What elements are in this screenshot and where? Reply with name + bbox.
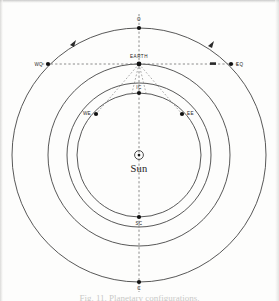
label-east-quadrature: EQ bbox=[236, 62, 243, 67]
label-conjunction: C bbox=[137, 286, 141, 291]
label-west-quadrature: WQ bbox=[34, 62, 43, 67]
label-east-elongation: EE bbox=[187, 111, 194, 116]
label-superior-conjunction: SC bbox=[135, 221, 142, 226]
node-dot-inferior-conjunction[interactable] bbox=[137, 91, 141, 95]
node-dot-conjunction[interactable] bbox=[137, 280, 141, 284]
label-earth: EARTH bbox=[130, 54, 148, 59]
orbit-direction-arrow-upper-right bbox=[208, 41, 214, 48]
axis-direction-arrow-east bbox=[210, 62, 216, 65]
label-opposition: O bbox=[137, 17, 141, 22]
node-dot-opposition[interactable] bbox=[137, 26, 141, 30]
node-dot-east-quadrature[interactable] bbox=[229, 62, 233, 66]
orbit-direction-arrow-outer bbox=[70, 40, 76, 47]
label-west-elongation: WE bbox=[83, 111, 91, 116]
node-dot-west-quadrature[interactable] bbox=[46, 62, 50, 66]
label-sun: Sun bbox=[130, 163, 148, 174]
label-inferior-conjunction: IC bbox=[136, 85, 142, 90]
figure-root: O WQ EQ EARTH IC WE EE SC C Sun Fig. 11.… bbox=[0, 0, 279, 301]
node-dot-superior-conjunction[interactable] bbox=[137, 215, 141, 219]
planetary-configurations-diagram: O WQ EQ EARTH IC WE EE SC C Sun bbox=[0, 0, 279, 301]
sun-symbol-core bbox=[138, 154, 141, 157]
node-dot-west-elongation[interactable] bbox=[94, 112, 98, 116]
node-dot-earth[interactable] bbox=[137, 62, 142, 67]
node-dot-east-elongation[interactable] bbox=[180, 112, 184, 116]
figure-caption: Fig. 11. Planetary configurations. bbox=[0, 293, 279, 301]
